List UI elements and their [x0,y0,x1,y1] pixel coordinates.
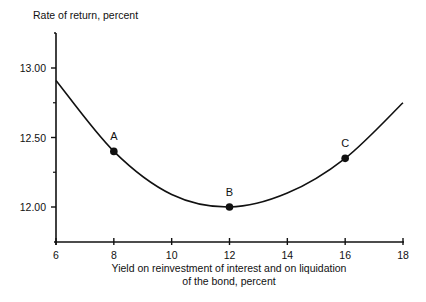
x-axis-label-line-1: Yield on reinvestment of interest and on… [112,262,347,274]
x-tick-label: 6 [53,249,59,261]
y-tick-label: 13.00 [20,62,46,74]
annotated-points: ABC [110,130,349,210]
x-tick-label: 14 [281,249,293,261]
point-a-label: A [110,130,118,142]
point-a-marker [110,148,118,156]
point-b-marker [226,203,234,211]
x-axis-label-line-2: of the bond, percent [182,275,275,287]
x-tick-label: 12 [224,249,236,261]
y-axis: 12.0012.5013.00 [20,33,56,245]
x-axis: 681012141618 [53,238,409,261]
x-tick-label: 10 [166,249,178,261]
y-tick-label: 12.00 [20,201,46,213]
point-b-label: B [226,186,233,198]
point-c-marker [341,155,349,163]
x-tick-label: 16 [339,249,351,261]
chart-canvas: 12.0012.5013.00 681012141618 Rate of ret… [0,0,426,302]
y-tick-label: 12.50 [20,132,46,144]
y-axis-label: Rate of return, percent [33,9,138,21]
x-tick-label: 18 [397,249,409,261]
point-c-label: C [341,137,349,149]
x-tick-label: 8 [111,249,117,261]
